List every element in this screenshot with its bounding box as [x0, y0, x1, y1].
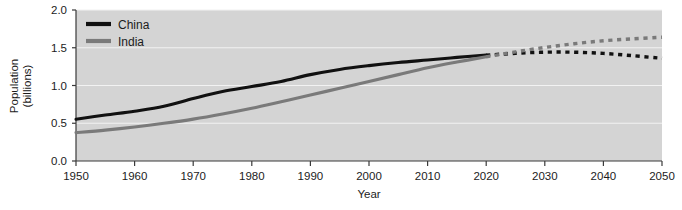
- x-tick-label-2010: 2010: [415, 170, 441, 182]
- x-tick-label-2000: 2000: [356, 170, 382, 182]
- y-tick-label-2.0: 2.0: [51, 4, 67, 16]
- x-tick-label-1990: 1990: [298, 170, 324, 182]
- x-tick-label-1960: 1960: [122, 170, 148, 182]
- population-line-chart: 0.00.51.01.52.0 195019601970198019902000…: [0, 0, 682, 210]
- x-tick-label-1980: 1980: [239, 170, 265, 182]
- legend-label-india: India: [118, 35, 144, 49]
- y-tick-label-1.5: 1.5: [51, 42, 67, 54]
- y-tick-label-0.5: 0.5: [51, 117, 67, 129]
- x-tick-label-2030: 2030: [532, 170, 558, 182]
- chart-figure: 0.00.51.01.52.0 195019601970198019902000…: [0, 0, 682, 210]
- y-axis-title-line1: Population: [8, 59, 20, 113]
- y-tick-label-1.0: 1.0: [51, 80, 67, 92]
- legend-label-china: China: [118, 18, 150, 32]
- y-tick-label-0.0: 0.0: [51, 155, 67, 167]
- x-tick-label-2020: 2020: [473, 170, 499, 182]
- x-tick-label-2040: 2040: [591, 170, 617, 182]
- x-tick-label-1950: 1950: [63, 170, 89, 182]
- y-axis-title-line2: (billions): [21, 64, 33, 107]
- x-axis-title: Year: [357, 188, 380, 200]
- x-tick-label-1970: 1970: [180, 170, 206, 182]
- x-tick-label-2050: 2050: [649, 170, 675, 182]
